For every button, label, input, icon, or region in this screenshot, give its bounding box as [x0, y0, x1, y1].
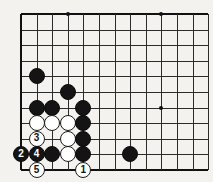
go-stone-white[interactable]	[60, 115, 76, 131]
go-stone-black[interactable]	[75, 131, 91, 147]
go-stone-white[interactable]	[44, 115, 60, 131]
go-stone-black-4[interactable]: 4	[29, 146, 45, 162]
go-stone-black[interactable]	[122, 146, 138, 162]
go-stone-white-5[interactable]: 5	[29, 162, 45, 178]
go-stone-black-2[interactable]: 2	[13, 146, 29, 162]
star-point	[159, 12, 163, 16]
go-board[interactable]: 32451	[0, 0, 213, 182]
grid-line-vertical	[115, 14, 116, 170]
grid-line-vertical	[99, 14, 100, 170]
go-stone-white-1[interactable]: 1	[75, 162, 91, 178]
go-stone-black[interactable]	[29, 100, 45, 116]
go-stone-white[interactable]	[29, 115, 45, 131]
go-stone-black[interactable]	[29, 68, 45, 84]
go-stone-black[interactable]	[44, 146, 60, 162]
grid-line-vertical	[161, 14, 162, 170]
grid-line-vertical	[177, 14, 178, 170]
star-point	[159, 106, 163, 110]
go-stone-black[interactable]	[60, 84, 76, 100]
stone-move-number: 1	[81, 165, 87, 175]
star-point	[66, 12, 70, 16]
go-diagram-screen: 32451	[0, 0, 213, 182]
go-stone-white[interactable]	[60, 146, 76, 162]
go-stone-white-3[interactable]: 3	[29, 131, 45, 147]
stone-move-number: 5	[34, 165, 40, 175]
grid-line-vertical	[208, 14, 209, 170]
go-stone-black[interactable]	[75, 146, 91, 162]
go-stone-black[interactable]	[44, 100, 60, 116]
stone-move-number: 3	[34, 133, 40, 143]
go-stone-black[interactable]	[75, 100, 91, 116]
stone-move-number: 4	[34, 149, 40, 159]
grid-line-vertical	[146, 14, 147, 170]
stone-move-number: 2	[18, 149, 24, 159]
go-stone-black[interactable]	[75, 115, 91, 131]
grid-line-vertical	[193, 14, 194, 170]
go-stone-white[interactable]	[60, 131, 76, 147]
